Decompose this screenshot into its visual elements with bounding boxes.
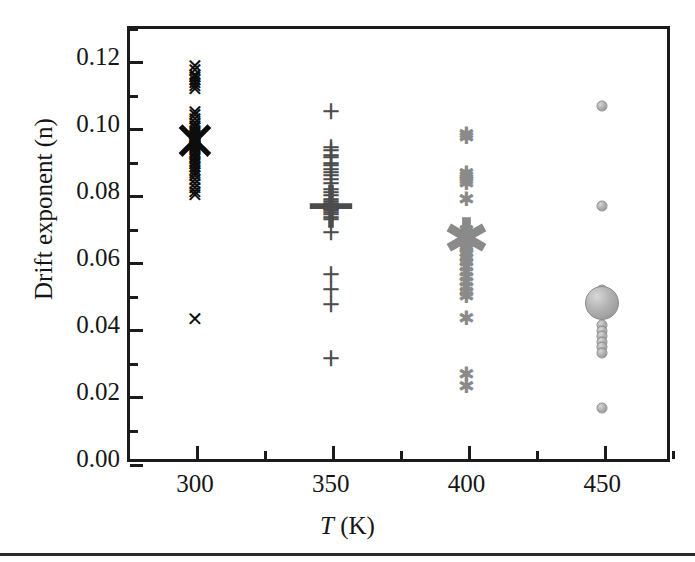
y-axis-tick-major <box>130 464 143 467</box>
y-axis-tick-major <box>130 396 143 399</box>
y-axis-tick-label: 0.04 <box>8 311 120 339</box>
figure-scatter-plot: Drift exponent (n) T (K) 0.000.020.040.0… <box>0 0 695 562</box>
x-axis-tick-major <box>468 446 471 459</box>
x-axis-tick-label: 350 <box>312 470 350 498</box>
x-axis-tick-label: 300 <box>176 470 214 498</box>
x-axis-tick-minor <box>672 451 675 459</box>
y-axis-tick-minor <box>130 95 138 98</box>
y-axis-tick-label: 0.10 <box>8 110 120 138</box>
y-axis-tick-minor <box>130 363 138 366</box>
x-axis-tick-major <box>332 446 335 459</box>
y-axis-tick-minor <box>130 430 138 433</box>
x-axis-tick-minor <box>400 451 403 459</box>
y-axis-tick-major <box>130 262 143 265</box>
x-axis-title-unit: (K) <box>334 512 375 539</box>
y-axis-tick-minor <box>130 162 138 165</box>
x-axis-tick-minor <box>536 451 539 459</box>
x-axis-tick-minor <box>264 451 267 459</box>
y-axis-tick-major <box>130 195 143 198</box>
y-axis-tick-label: 0.08 <box>8 177 120 205</box>
y-axis-tick-label: 0.00 <box>8 445 120 473</box>
y-axis-tick-major <box>130 128 143 131</box>
x-axis-tick-label: 400 <box>448 470 486 498</box>
x-axis-title-symbol: T <box>320 512 334 539</box>
y-axis-tick-minor <box>130 229 138 232</box>
x-axis-tick-label: 450 <box>583 470 621 498</box>
plot-area-frame <box>127 26 670 462</box>
y-axis-tick-minor <box>130 28 138 31</box>
y-axis-tick-major <box>130 61 143 64</box>
y-axis-tick-label: 0.12 <box>8 43 120 71</box>
y-axis-tick-label: 0.02 <box>8 378 120 406</box>
x-axis-title: T (K) <box>0 512 695 540</box>
y-axis-tick-label: 0.06 <box>8 244 120 272</box>
x-axis-tick-major <box>196 446 199 459</box>
page-bottom-rule <box>0 553 695 556</box>
y-axis-tick-major <box>130 329 143 332</box>
y-axis-tick-minor <box>130 296 138 299</box>
x-axis-tick-major <box>604 446 607 459</box>
